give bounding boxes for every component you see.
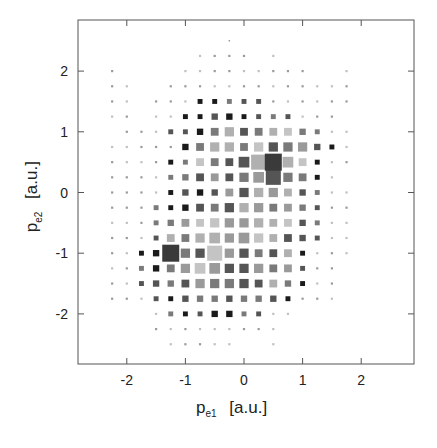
data-squares [111, 40, 348, 345]
data-square [196, 158, 204, 166]
data-square [214, 70, 216, 72]
data-square [254, 233, 263, 242]
data-square [287, 85, 289, 87]
data-square [253, 172, 264, 183]
x-axis-label-unit: [a.u.] [229, 398, 267, 417]
data-square [126, 282, 128, 284]
data-square [140, 146, 142, 148]
data-square [225, 279, 234, 288]
data-square [271, 114, 276, 119]
data-square [286, 114, 291, 119]
data-square [331, 222, 333, 224]
data-square [272, 55, 274, 57]
data-square [140, 298, 142, 300]
data-square [154, 205, 159, 210]
data-square [314, 144, 320, 150]
x-tick-label: 0 [240, 372, 248, 388]
data-square [212, 296, 218, 302]
data-square [140, 207, 142, 209]
data-square [199, 55, 201, 57]
data-square [239, 188, 248, 197]
data-square [298, 142, 307, 151]
y-tick-label: 0 [60, 185, 68, 201]
data-square [287, 70, 289, 72]
data-square [270, 296, 276, 302]
data-square [196, 204, 204, 212]
data-square [195, 263, 206, 274]
data-square [198, 114, 203, 119]
data-square [242, 99, 247, 104]
data-square [214, 343, 216, 345]
data-square [329, 145, 334, 150]
data-square [111, 207, 113, 209]
data-square [126, 100, 128, 102]
data-square [284, 128, 292, 136]
data-square [269, 128, 277, 136]
data-square [199, 85, 201, 87]
data-square [139, 251, 144, 256]
data-square [211, 173, 219, 181]
data-square [126, 85, 128, 87]
data-square [345, 222, 347, 224]
data-square [239, 173, 248, 182]
data-square [197, 296, 203, 302]
data-square [170, 328, 172, 330]
data-square [168, 296, 173, 301]
data-square [240, 143, 248, 151]
data-square [181, 264, 190, 273]
data-square [269, 249, 277, 257]
data-square [243, 55, 245, 57]
data-square [111, 237, 113, 239]
data-square [300, 266, 305, 271]
data-square [302, 70, 304, 72]
data-square [331, 191, 333, 193]
data-square [255, 280, 263, 288]
data-square [212, 113, 218, 119]
data-square [345, 85, 347, 87]
data-square [140, 176, 142, 178]
y-axis-label-sub: e2 [33, 212, 44, 223]
data-square [182, 234, 190, 242]
data-square [182, 296, 188, 302]
data-square [170, 146, 172, 148]
data-square [111, 70, 113, 72]
data-square [126, 298, 128, 300]
y-axis-label: pe2 [a.u.] [22, 142, 43, 252]
data-square [198, 311, 203, 316]
data-square [331, 176, 333, 178]
data-square [345, 70, 347, 72]
data-square [316, 116, 318, 118]
data-square [331, 298, 333, 300]
data-square [345, 252, 347, 254]
data-square [300, 251, 305, 256]
data-square [316, 267, 318, 269]
data-square [315, 236, 320, 241]
data-square [225, 173, 233, 181]
data-square [225, 142, 234, 151]
data-square [284, 219, 292, 227]
data-square [251, 155, 266, 170]
data-square [287, 100, 289, 102]
data-square [239, 203, 248, 212]
data-square [299, 129, 305, 135]
data-square [211, 158, 219, 166]
data-square [199, 70, 201, 72]
data-square [226, 113, 232, 119]
data-square [168, 129, 173, 134]
data-square [331, 161, 333, 163]
data-square [154, 236, 159, 241]
data-square [111, 176, 113, 178]
data-square [210, 142, 219, 151]
data-square [153, 250, 159, 256]
data-square [111, 298, 113, 300]
data-square [199, 328, 201, 330]
data-square [126, 176, 128, 178]
data-square [225, 264, 234, 273]
data-square [126, 131, 128, 133]
data-square [126, 207, 128, 209]
data-square [255, 128, 263, 136]
data-square [170, 343, 172, 345]
data-square [155, 131, 157, 133]
data-square [331, 267, 333, 269]
y-axis-label-main: p [22, 223, 41, 232]
